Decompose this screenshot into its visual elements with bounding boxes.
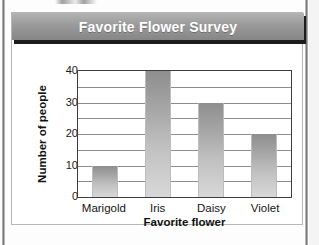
page-margin-right [309,0,319,245]
y-axis-tick-label: 0 [56,191,78,202]
chart-title-bar: Favorite Flower Survey [12,13,304,40]
bar-slot [185,71,238,197]
chart-card: Favorite Flower Survey Number of people … [11,12,303,225]
x-axis-tick-label: Violet [238,200,292,216]
bar-series [78,71,291,197]
bar-daisy [198,103,224,198]
y-axis-tick-label: 30 [56,97,78,108]
y-axis-tick-label: 40 [56,65,78,76]
bar-slot [238,71,291,197]
scan-artifact [55,0,115,4]
bar-violet [251,134,277,197]
bar-slot [131,71,184,197]
chart-title: Favorite Flower Survey [79,20,237,34]
x-axis-tick-labels: MarigoldIrisDaisyViolet [77,200,292,216]
y-axis-title: Number of people [34,69,50,199]
x-axis-tick-label: Marigold [77,200,131,216]
y-axis-tick-labels: 010203040 [54,44,78,198]
bar-iris [145,71,171,197]
page-gutter-left [2,0,5,245]
x-axis-tick-label: Iris [131,200,185,216]
y-axis-tick-label: 20 [56,128,78,139]
plot-area: Number of people 010203040 MarigoldIrisD… [12,44,304,226]
x-axis-title: Favorite flower [77,216,292,228]
y-axis-tick-label: 10 [56,160,78,171]
x-axis-tick-label: Daisy [185,200,239,216]
page-canvas: Favorite Flower Survey Number of people … [0,0,319,245]
bar-marigold [92,166,118,198]
plot-frame [77,70,292,198]
bar-slot [78,71,131,197]
